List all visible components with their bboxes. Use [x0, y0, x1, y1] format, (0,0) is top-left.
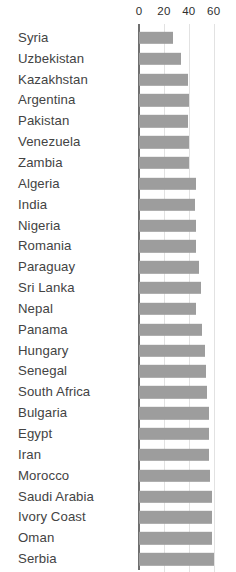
- bar-india: [139, 198, 195, 210]
- x-tick-label-60: 60: [207, 5, 220, 17]
- bar-bulgaria: [139, 407, 209, 419]
- category-label-romania: Romania: [0, 239, 124, 253]
- x-axis-tick-labels: 0204060: [0, 0, 236, 24]
- bar-sri-lanka: [139, 282, 201, 294]
- bar-row: South Africa: [0, 382, 236, 403]
- bar-row: Iran: [0, 445, 236, 466]
- category-label-saudi-arabia: Saudi Arabia: [0, 489, 124, 503]
- bar-row: Bulgaria: [0, 403, 236, 424]
- bar-pakistan: [139, 115, 188, 127]
- bar-ivory-coast: [139, 511, 212, 523]
- bar-zambia: [139, 157, 189, 169]
- bar-row: Hungary: [0, 340, 236, 361]
- bar-senegal: [139, 365, 206, 377]
- bar-row: Sri Lanka: [0, 278, 236, 299]
- horizontal-bar-chart: 0204060 SyriaUzbekistanKazakhstanArgenti…: [0, 0, 236, 572]
- bar-row: Pakistan: [0, 111, 236, 132]
- category-label-pakistan: Pakistan: [0, 114, 124, 128]
- category-label-south-africa: South Africa: [0, 385, 124, 399]
- bar-kazakhstan: [139, 73, 188, 85]
- category-label-ivory-coast: Ivory Coast: [0, 510, 124, 524]
- bar-row: Saudi Arabia: [0, 486, 236, 507]
- category-label-senegal: Senegal: [0, 364, 124, 378]
- category-label-oman: Oman: [0, 531, 124, 545]
- bar-row: Ivory Coast: [0, 507, 236, 528]
- category-label-venezuela: Venezuela: [0, 135, 124, 149]
- bar-morocco: [139, 470, 210, 482]
- bar-serbia: [139, 553, 214, 565]
- bar-row: Kazakhstan: [0, 69, 236, 90]
- bar-nigeria: [139, 219, 196, 231]
- category-label-sri-lanka: Sri Lanka: [0, 281, 124, 295]
- bar-syria: [139, 32, 173, 44]
- category-label-zambia: Zambia: [0, 156, 124, 170]
- category-label-hungary: Hungary: [0, 343, 124, 357]
- category-label-serbia: Serbia: [0, 552, 124, 566]
- category-label-india: India: [0, 197, 124, 211]
- category-label-kazakhstan: Kazakhstan: [0, 72, 124, 86]
- bar-row: Paraguay: [0, 257, 236, 278]
- x-tick-label-40: 40: [182, 5, 195, 17]
- category-label-argentina: Argentina: [0, 93, 124, 107]
- category-label-nigeria: Nigeria: [0, 218, 124, 232]
- bar-row: Egypt: [0, 424, 236, 445]
- bar-row: Nepal: [0, 299, 236, 320]
- bar-row: Syria: [0, 28, 236, 49]
- bar-row: Morocco: [0, 465, 236, 486]
- category-label-egypt: Egypt: [0, 427, 124, 441]
- bar-row: Nigeria: [0, 215, 236, 236]
- x-tick-label-20: 20: [157, 5, 170, 17]
- plot-area: SyriaUzbekistanKazakhstanArgentinaPakist…: [0, 24, 236, 572]
- bar-romania: [139, 240, 196, 252]
- bar-iran: [139, 449, 209, 461]
- bar-row: Romania: [0, 236, 236, 257]
- bar-algeria: [139, 178, 196, 190]
- category-label-iran: Iran: [0, 448, 124, 462]
- bar-row: Uzbekistan: [0, 48, 236, 69]
- category-label-paraguay: Paraguay: [0, 260, 124, 274]
- bar-row: Senegal: [0, 361, 236, 382]
- bar-row: Serbia: [0, 549, 236, 570]
- bar-saudi-arabia: [139, 490, 212, 502]
- bar-row: Oman: [0, 528, 236, 549]
- category-label-uzbekistan: Uzbekistan: [0, 51, 124, 65]
- bar-row: Argentina: [0, 90, 236, 111]
- bar-rows: SyriaUzbekistanKazakhstanArgentinaPakist…: [0, 24, 236, 572]
- category-label-syria: Syria: [0, 31, 124, 45]
- bar-row: Algeria: [0, 173, 236, 194]
- bar-nepal: [139, 303, 196, 315]
- bar-hungary: [139, 344, 205, 356]
- bar-row: India: [0, 194, 236, 215]
- bar-argentina: [139, 94, 189, 106]
- bar-paraguay: [139, 261, 199, 273]
- bar-south-africa: [139, 386, 207, 398]
- category-label-morocco: Morocco: [0, 468, 124, 482]
- bar-oman: [139, 532, 212, 544]
- bar-panama: [139, 324, 202, 336]
- category-label-nepal: Nepal: [0, 302, 124, 316]
- bar-uzbekistan: [139, 53, 181, 65]
- x-tick-label-0: 0: [136, 5, 143, 17]
- bar-egypt: [139, 428, 209, 440]
- category-label-bulgaria: Bulgaria: [0, 406, 124, 420]
- category-label-panama: Panama: [0, 323, 124, 337]
- bar-row: Venezuela: [0, 132, 236, 153]
- bar-row: Zambia: [0, 153, 236, 174]
- category-label-algeria: Algeria: [0, 177, 124, 191]
- bar-venezuela: [139, 136, 189, 148]
- bar-row: Panama: [0, 319, 236, 340]
